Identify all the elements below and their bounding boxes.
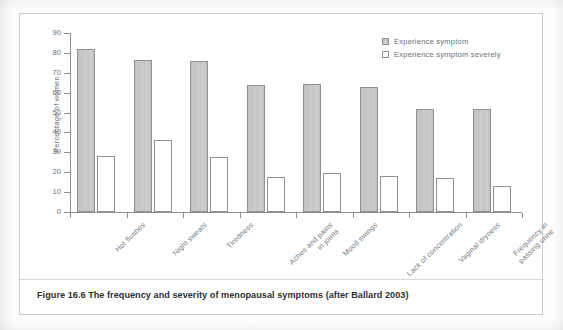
- y-tick-mark: [64, 73, 71, 74]
- y-tick-label: 90: [28, 29, 61, 37]
- figure-box: Percentage of women 0102030405060708090 …: [19, 13, 543, 315]
- y-tick-mark: [64, 192, 71, 193]
- bar-experience: [416, 109, 434, 212]
- bar-severe: [493, 186, 511, 212]
- y-tick-mark: [64, 113, 71, 114]
- legend-label: Experience symptom: [394, 37, 469, 46]
- legend-swatch-icon: [382, 51, 389, 58]
- y-tick-mark: [64, 93, 71, 94]
- y-axis-line: [70, 33, 71, 213]
- y-tick-mark: [64, 172, 71, 173]
- legend-item: Experience symptom: [382, 35, 542, 47]
- y-tick-mark: [64, 152, 71, 153]
- bar-severe: [210, 157, 228, 212]
- bar-severe: [436, 178, 454, 212]
- x-tick-mark: [296, 213, 297, 218]
- x-tick-mark: [522, 213, 523, 218]
- x-axis-category-label: Hot flushes: [114, 221, 148, 254]
- y-tick-mark: [64, 53, 71, 54]
- x-tick-mark: [466, 213, 467, 218]
- bar-severe: [323, 173, 341, 212]
- y-tick-mark: [64, 132, 71, 133]
- bar-experience: [247, 85, 265, 212]
- y-tick-label: 0: [28, 208, 61, 216]
- y-tick-label: 50: [28, 109, 61, 117]
- bar-experience: [473, 109, 491, 212]
- y-tick-label: 80: [28, 49, 61, 57]
- x-axis-category-label: Mood swings: [341, 221, 379, 258]
- y-tick-mark: [64, 33, 71, 34]
- x-tick-mark: [240, 213, 241, 218]
- caption-divider: [20, 279, 544, 280]
- bar-severe: [267, 177, 285, 212]
- legend-item: Experience symptom severely: [382, 48, 542, 60]
- bar-experience: [134, 60, 152, 212]
- bar-severe: [154, 140, 172, 212]
- bar-experience: [190, 61, 208, 212]
- bar-experience: [303, 84, 321, 212]
- scanned-page: Percentage of women 0102030405060708090 …: [0, 0, 563, 330]
- figure-caption: Figure 16.6 The frequency and severity o…: [37, 290, 533, 300]
- x-axis-category-label: Aches and pains in joints: [288, 221, 341, 273]
- x-axis-category-label: Tiredness: [225, 221, 255, 251]
- y-tick-label: 40: [28, 128, 61, 136]
- legend-label: Experience symptom severely: [394, 50, 501, 59]
- x-axis-category-label: Frequency in passing urine: [511, 221, 556, 265]
- y-tick-label: 70: [28, 69, 61, 77]
- bar-severe: [380, 176, 398, 212]
- bar-severe: [97, 156, 115, 212]
- x-tick-mark: [70, 213, 71, 218]
- y-tick-label: 60: [28, 89, 61, 97]
- legend-swatch-icon: [382, 38, 389, 45]
- bar-experience: [360, 87, 378, 212]
- y-tick-label: 20: [28, 168, 61, 176]
- y-tick-label: 30: [28, 148, 61, 156]
- y-tick-label: 10: [28, 188, 61, 196]
- x-tick-mark: [127, 213, 128, 218]
- chart-legend: Experience symptomExperience symptom sev…: [382, 35, 542, 61]
- x-axis-category-label: Night sweats: [172, 221, 210, 258]
- chart-plot-area: Percentage of women 0102030405060708090 …: [20, 14, 544, 316]
- x-tick-mark: [409, 213, 410, 218]
- x-axis-category-label: Lack of concentration: [406, 221, 465, 278]
- bar-experience: [77, 49, 95, 212]
- x-tick-mark: [353, 213, 354, 218]
- x-tick-mark: [183, 213, 184, 218]
